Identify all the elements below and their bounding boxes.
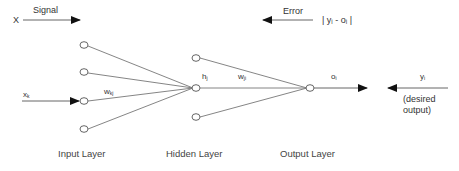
error-label: Error [283,7,303,16]
desired-y-label: yi [420,73,425,81]
desired-caption-1: (desired [403,95,436,104]
input-node [80,42,88,49]
output-layer-label: Output Layer [280,149,335,159]
input-node [80,98,88,105]
network-diagram [0,0,459,171]
output-node [306,85,314,92]
hidden-node [192,85,200,92]
hidden-layer-label: Hidden Layer [166,149,223,159]
input-x-label: xk [23,91,30,99]
desired-caption-2: output) [403,106,431,115]
error-formula: | yᵢ - oᵢ | [322,16,352,25]
hidden-h-label: hj [202,73,208,81]
signal-label: Signal [33,6,58,15]
hidden-node [192,55,200,62]
input-layer-label: Input Layer [58,149,106,159]
input-node [80,69,88,76]
hidden-node [192,114,200,121]
hidden-output-edges [200,58,307,117]
weight-ji-label: wji [238,73,246,81]
output-o-label: oi [331,73,337,81]
weight-kj-label: wkj [104,88,113,96]
input-node [80,126,88,133]
input-var-label: X [13,16,19,25]
